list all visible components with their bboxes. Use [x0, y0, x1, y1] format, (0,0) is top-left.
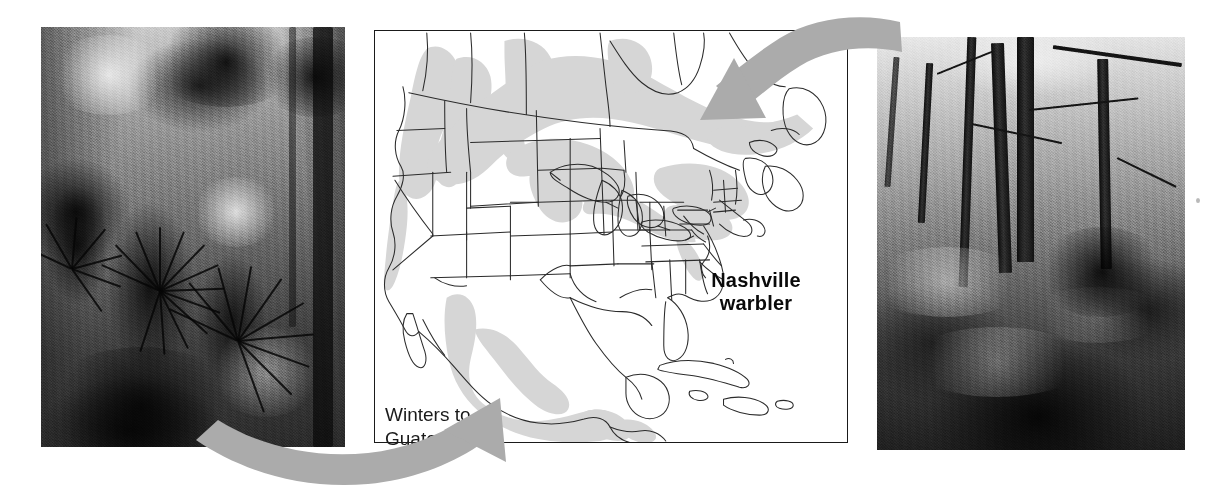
species-label-line1: Nashville — [681, 269, 831, 292]
figure-root: Nashville warbler Winters to Guatemala — [0, 0, 1214, 500]
photo-temperate-breeding-habitat — [877, 37, 1185, 450]
photo-grain — [877, 37, 1185, 450]
photo-tropical-wintering-habitat — [41, 27, 345, 447]
species-label: Nashville warbler — [681, 269, 831, 315]
species-label-line2: warbler — [681, 292, 831, 315]
wintering-label: Winters to Guatemala — [385, 403, 555, 451]
breeding-range-shading — [384, 39, 813, 291]
dust-speck — [1196, 198, 1200, 203]
wintering-label-line2: Guatemala — [385, 427, 555, 451]
range-map-panel: Nashville warbler Winters to Guatemala — [374, 30, 848, 443]
wintering-label-line1: Winters to — [385, 403, 555, 427]
photo-grain — [41, 27, 345, 447]
north-america-map — [375, 31, 847, 442]
